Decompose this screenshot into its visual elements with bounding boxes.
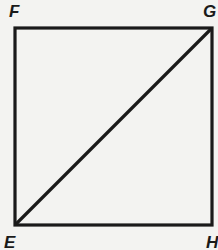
square-figure (0, 0, 218, 250)
vertex-label-g: G (203, 3, 216, 20)
vertex-label-f: F (9, 3, 19, 20)
diagonal-eg (16, 29, 211, 224)
vertex-label-e: E (4, 234, 15, 250)
vertex-label-h: H (206, 234, 218, 250)
square-diagram: F G E H (0, 0, 218, 250)
